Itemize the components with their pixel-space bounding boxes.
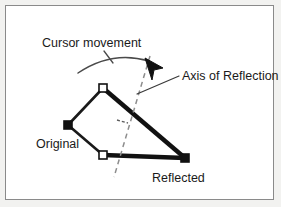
shape-vertex-handles (64, 84, 189, 162)
edge-right-top (103, 88, 185, 158)
edge-bottom-right (103, 155, 185, 158)
axis-midpoint-tick (117, 120, 128, 123)
label-original: Original (36, 138, 79, 151)
edge-top-left (68, 88, 103, 125)
vertex-handle-right-filled[interactable] (181, 154, 189, 162)
vertex-handle-bottom-hollow[interactable] (99, 151, 107, 159)
reflected-shape-edges (103, 88, 185, 158)
axis-leader-line (137, 76, 179, 94)
vertex-handle-top-hollow[interactable] (99, 84, 107, 92)
cursor-movement-leader-line (104, 51, 113, 63)
cursor-arrow-icon[interactable] (145, 58, 163, 80)
vertex-handle-left-filled[interactable] (64, 121, 72, 129)
diagram-canvas (0, 0, 281, 207)
label-cursor-movement: Cursor movement (42, 37, 141, 50)
cursor-movement-arc (78, 57, 149, 73)
axis-of-reflection-line[interactable] (114, 56, 150, 177)
label-reflected: Reflected (152, 172, 205, 185)
label-axis-of-reflection: Axis of Reflection (182, 70, 279, 83)
diagram-root: Cursor movement Axis of Reflection Origi… (0, 0, 281, 207)
